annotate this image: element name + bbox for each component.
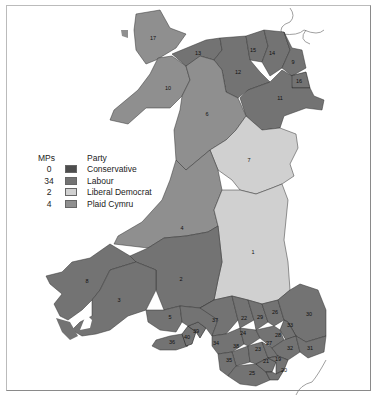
legend-row-plaid-cymru: 4 Plaid Cymru [38,198,152,210]
legend-header: MPs Party [38,152,152,164]
label-33: 33 [287,322,293,328]
label-38: 38 [233,343,239,349]
label-16: 16 [296,78,302,84]
constituency-05[interactable] [146,306,182,332]
label-32: 32 [287,345,293,351]
label-30: 30 [306,311,312,317]
label-29: 29 [257,314,263,320]
label-26: 26 [272,309,278,315]
legend-party-label: Labour [87,176,113,186]
legend-header-party: Party [87,153,107,163]
label-08: 8 [85,278,88,284]
label-23: 23 [255,346,261,352]
label-21: 21 [263,358,269,364]
legend-mps-count: 34 [38,176,60,186]
label-27: 27 [266,340,272,346]
label-36: 36 [169,339,175,345]
label-07: 7 [247,157,250,163]
label-06: 6 [205,111,208,117]
label-15: 15 [250,47,256,53]
legend-row-liberal-democrat: 2 Liberal Democrat [38,187,152,199]
legend-swatch-plaid-cymru [65,200,77,208]
label-09: 9 [291,59,294,65]
label-40: 40 [184,334,190,340]
legend-swatch-labour [65,177,77,185]
legend-party-label: Liberal Democrat [87,187,152,197]
legend-swatch-conservative [65,165,77,173]
constituency-01[interactable] [214,184,290,304]
coastline-south [296,360,326,395]
label-17: 17 [150,35,156,41]
label-11: 11 [277,95,283,101]
label-05: 5 [168,314,171,320]
holy-island [121,30,128,38]
label-03: 3 [117,297,120,303]
label-35: 35 [226,357,232,363]
label-22: 22 [241,315,247,321]
label-20: 20 [281,367,287,373]
label-39: 39 [193,328,199,334]
label-12: 12 [235,69,241,75]
label-02: 2 [179,276,182,282]
legend-header-mps: MPs [38,153,60,163]
label-10: 10 [165,85,171,91]
coastline-north [281,8,324,35]
legend-party-label: Conservative [87,164,137,174]
label-14: 14 [269,50,275,56]
legend-swatch-liberal-democrat [65,188,77,196]
label-34: 34 [213,340,219,346]
label-37: 37 [212,317,218,323]
legend-mps-count: 4 [38,199,60,209]
label-04: 4 [180,225,183,231]
label-25: 25 [249,370,255,376]
label-24: 24 [240,330,246,336]
legend-party-label: Plaid Cymru [87,199,133,209]
legend-row-labour: 34 Labour [38,175,152,187]
label-19: 19 [275,356,281,362]
label-28: 28 [275,332,281,338]
label-31: 31 [307,345,313,351]
map-legend: MPs Party 0 Conservative 34 Labour 2 Lib… [38,152,152,210]
legend-mps-count: 0 [38,164,60,174]
label-01: 1 [251,249,254,255]
constituency-10[interactable] [110,56,190,124]
label-13: 13 [195,50,201,56]
legend-row-conservative: 0 Conservative [38,164,152,176]
legend-mps-count: 2 [38,187,60,197]
